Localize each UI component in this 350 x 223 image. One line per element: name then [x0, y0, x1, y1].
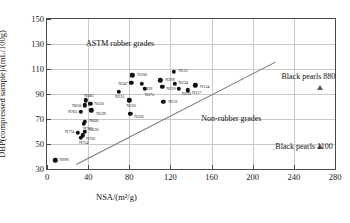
- y-tick-mark: [47, 44, 51, 45]
- data-point: [160, 84, 164, 88]
- x-tick-label: 40: [84, 172, 93, 182]
- data-point: [129, 81, 133, 85]
- y-tick-label: 150: [31, 14, 44, 24]
- data-point: [128, 112, 132, 116]
- data-point: [172, 82, 176, 86]
- y-gridline: [47, 69, 335, 70]
- data-point-label: N234: [179, 80, 188, 85]
- y-axis-title: DBP(compressed sample)/(mL/100g): [0, 30, 7, 158]
- data-point-label: N375: [145, 92, 154, 97]
- data-point-triangle: [317, 85, 323, 90]
- scatter-chart: DBP(compressed sample)/(mL/100g) NSA/(m²…: [0, 0, 350, 223]
- data-point: [171, 69, 175, 73]
- plot-area: 0408012016020024028030507090110130150N99…: [46, 18, 336, 170]
- data-point-label: N683: [84, 93, 93, 98]
- x-tick-label: 160: [205, 172, 218, 182]
- data-point: [83, 103, 87, 107]
- data-point-label: N351: [115, 94, 124, 99]
- data-point: [193, 83, 197, 87]
- data-point-label: N231: [168, 99, 177, 104]
- data-point-label: N326: [134, 114, 143, 119]
- data-point: [79, 109, 83, 113]
- data-point-label: N550: [94, 101, 103, 106]
- x-axis-title: NSA/(m²/g): [96, 192, 137, 202]
- y-tick-mark: [47, 144, 51, 145]
- data-point: [89, 108, 93, 112]
- y-tick-label: 90: [36, 89, 45, 99]
- x-tick-label: 80: [125, 172, 134, 182]
- x-tick-mark: [335, 165, 336, 169]
- y-tick-label: 70: [36, 114, 45, 124]
- data-point: [161, 99, 165, 103]
- x-tick-mark: [253, 165, 254, 169]
- x-tick-label: 200: [246, 172, 259, 182]
- x-tick-label: 280: [329, 172, 342, 182]
- x-tick-label: 0: [45, 172, 49, 182]
- data-point: [79, 136, 83, 140]
- x-tick-mark: [294, 165, 295, 169]
- data-point-label: N990: [59, 157, 68, 162]
- data-point: [76, 131, 80, 135]
- y-tick-label: 110: [32, 64, 44, 74]
- data-point: [127, 98, 131, 102]
- y-tick-mark: [47, 94, 51, 95]
- data-point-label: N539: [96, 111, 105, 116]
- data-point-label: N754: [79, 140, 88, 145]
- chart-annotation: Black pearls 880: [282, 72, 336, 81]
- y-tick-label: 50: [36, 139, 45, 149]
- x-tick-label: 240: [287, 172, 300, 182]
- x-tick-mark: [212, 165, 213, 169]
- chart-annotation: Black pearls 1100: [275, 142, 332, 151]
- data-point: [158, 78, 162, 82]
- x-tick-mark: [129, 165, 130, 169]
- chart-annotation: Non-rubber grades: [201, 114, 261, 123]
- data-point: [88, 102, 92, 106]
- y-tick-label: 130: [31, 39, 44, 49]
- chart-annotation: ASTM rubber grades: [86, 39, 154, 48]
- data-point-label: N358: [137, 72, 146, 77]
- data-point: [53, 158, 57, 162]
- x-tick-mark: [170, 165, 171, 169]
- y-tick-mark: [47, 69, 51, 70]
- data-point: [176, 87, 180, 91]
- data-point-label: N650: [72, 103, 81, 108]
- y-tick-mark: [47, 119, 51, 120]
- y-tick-mark: [47, 19, 51, 20]
- y-tick-mark: [47, 169, 51, 170]
- data-point-label: N774: [65, 129, 74, 134]
- data-point-label: N330: [126, 103, 135, 108]
- data-point: [130, 73, 134, 77]
- data-point-label: N347: [118, 81, 127, 86]
- data-point-label: N787: [83, 126, 92, 131]
- data-point-label: N117: [192, 90, 201, 95]
- data-point-label: N765: [68, 109, 77, 114]
- x-tick-label: 120: [164, 172, 177, 182]
- data-point-label: N660: [89, 118, 98, 123]
- y-tick-label: 30: [36, 164, 45, 174]
- x-tick-mark: [88, 165, 89, 169]
- data-point-label: N134: [200, 84, 209, 89]
- data-point-label: N220: [166, 86, 175, 91]
- data-point-label: N121: [179, 68, 188, 73]
